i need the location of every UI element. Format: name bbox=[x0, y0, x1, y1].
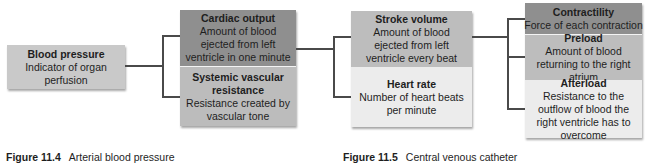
node-desc: Indicator of organ perfusion bbox=[11, 61, 121, 87]
node-desc: Resistance created by vascular tone bbox=[184, 97, 292, 123]
connector bbox=[162, 35, 180, 37]
connector bbox=[162, 96, 180, 98]
connector bbox=[507, 18, 525, 20]
cardiac-output-node: Cardiac output Amount of blood ejected f… bbox=[180, 10, 296, 66]
contractility-node: Contractility Force of each contraction bbox=[525, 3, 642, 34]
node-title: Blood pressure bbox=[27, 48, 104, 61]
node-desc: Resistance to the outflow of blood the r… bbox=[529, 90, 638, 142]
connector bbox=[333, 36, 335, 98]
connector bbox=[507, 108, 525, 110]
figure-title: Arterial blood pressure bbox=[69, 151, 175, 163]
figure-number: Figure 11.4 bbox=[6, 151, 61, 163]
connector bbox=[162, 35, 164, 98]
node-desc: Number of heart beats per minute bbox=[355, 91, 468, 117]
stroke-volume-node: Stroke volume Amount of blood ejected fr… bbox=[351, 11, 472, 67]
connector bbox=[507, 56, 525, 58]
figure-caption: Figure 11.5Central venous catheter bbox=[343, 151, 517, 163]
node-title: Preload bbox=[564, 32, 603, 45]
node-desc: Force of each contraction bbox=[524, 19, 642, 32]
node-title: Afterload bbox=[560, 77, 606, 90]
figure-title: Central venous catheter bbox=[406, 151, 517, 163]
preload-node: Preload Amount of blood returning to the… bbox=[525, 35, 642, 80]
connector bbox=[333, 96, 351, 98]
connector bbox=[507, 18, 509, 110]
node-title: Systemic vascular resistance bbox=[184, 71, 292, 97]
blood-pressure-node: Blood pressure Indicator of organ perfus… bbox=[7, 45, 125, 89]
stroke-volume-stack: Stroke volume Amount of blood ejected fr… bbox=[351, 11, 472, 127]
blood-pressure-box: Blood pressure Indicator of organ perfus… bbox=[7, 45, 125, 89]
node-title: Stroke volume bbox=[375, 13, 447, 26]
figure-number: Figure 11.5 bbox=[343, 151, 398, 163]
node-title: Heart rate bbox=[387, 78, 436, 91]
cardiac-determinants-stack: Contractility Force of each contraction … bbox=[525, 3, 642, 138]
afterload-node: Afterload Resistance to the outflow of b… bbox=[525, 80, 642, 138]
node-desc: Amount of blood ejected from left ventri… bbox=[184, 25, 292, 64]
cardiac-output-stack: Cardiac output Amount of blood ejected f… bbox=[180, 10, 296, 126]
connector bbox=[472, 36, 509, 38]
heart-rate-node: Heart rate Number of heart beats per min… bbox=[351, 67, 472, 127]
node-title: Contractility bbox=[553, 6, 614, 19]
figure-caption: Figure 11.4Arterial blood pressure bbox=[6, 151, 175, 163]
connector bbox=[125, 65, 164, 67]
connector bbox=[333, 36, 351, 38]
systemic-vascular-resistance-node: Systemic vascular resistance Resistance … bbox=[180, 67, 296, 126]
node-title: Cardiac output bbox=[201, 12, 275, 25]
node-desc: Amount of blood ejected from left ventri… bbox=[355, 26, 468, 65]
connector bbox=[296, 48, 335, 50]
